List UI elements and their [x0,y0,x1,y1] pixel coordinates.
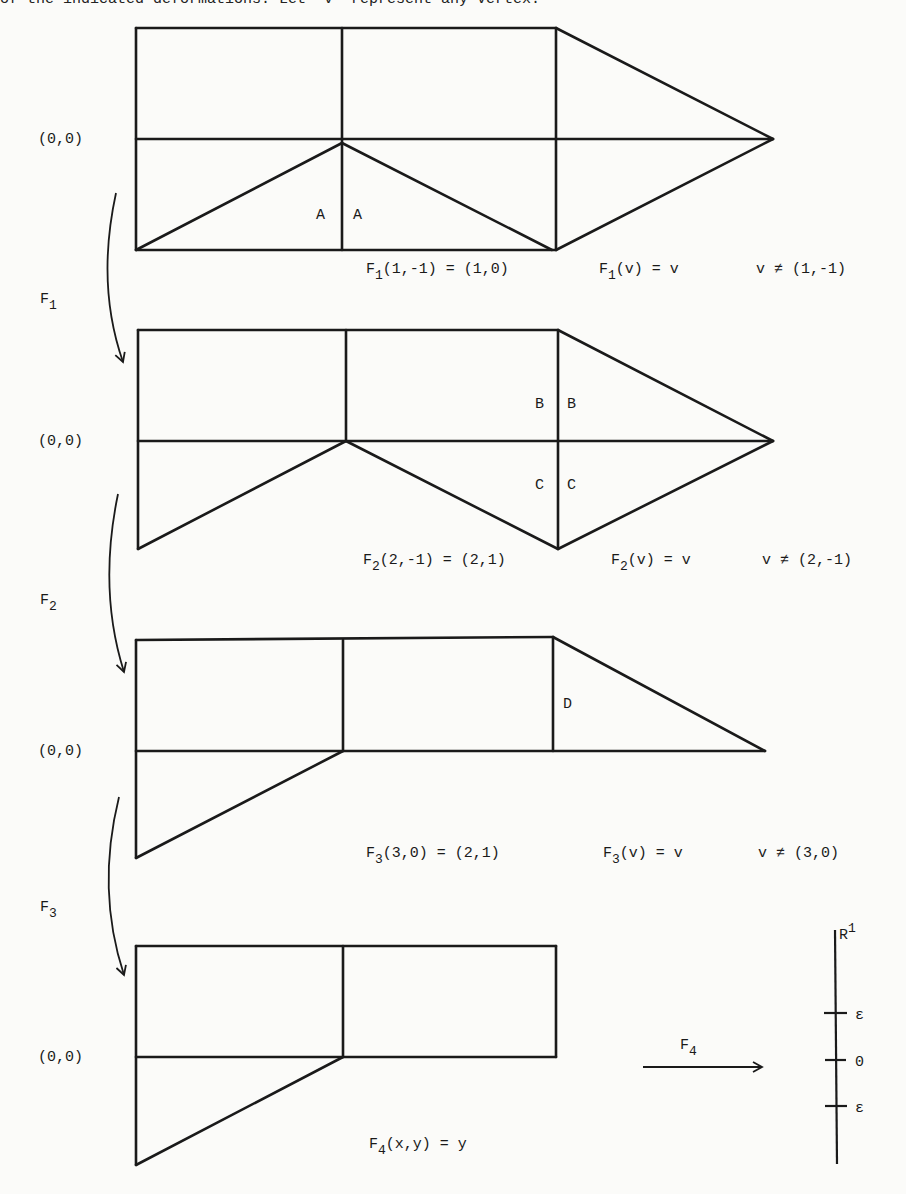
deformation-diagram [0,0,906,1194]
origin-label-4: (0,0) [38,1050,83,1065]
equation-f2-vertex: F2(2,-1) = (2,1) [363,553,506,568]
equation-f1-vertex: F1(1,-1) = (1,0) [366,262,509,277]
region-label-d: D [563,697,572,712]
complex-stage-2 [138,330,773,549]
header-fragment: of the indicated deformations. Let "v" r… [0,0,540,8]
map-label-f3: F3 [40,900,57,915]
tick-label-epsilon-lower: ε [855,1101,864,1116]
region-label-b-right: B [567,397,576,412]
equation-f2-condition: v ≠ (2,-1) [762,553,852,568]
curved-arrow-f2 [109,494,124,672]
region-label-c-left: C [535,478,544,493]
region-label-a-left: A [316,208,325,223]
region-label-b-left: B [535,397,544,412]
map-label-f1: F1 [40,292,57,307]
curved-arrow-f3 [109,797,124,975]
complex-stage-3 [136,637,765,858]
region-label-a-right: A [353,208,362,223]
tick-label-zero: 0 [855,1055,864,1070]
map-label-f4: F4 [680,1038,697,1053]
equation-f2-identity: F2(v) = v [611,553,691,568]
origin-label-3: (0,0) [38,744,83,759]
origin-label-1: (0,0) [38,132,83,147]
equation-f1-condition: v ≠ (1,-1) [756,262,846,277]
complex-stage-1 [136,28,773,250]
equation-f4-projection: F4(x,y) = y [369,1137,467,1152]
region-label-c-right: C [567,478,576,493]
number-line-r1 [824,930,847,1164]
equation-f1-identity: F1(v) = v [599,262,679,277]
map-label-f2: F2 [40,593,57,608]
equation-f3-identity: F3(v) = v [603,846,683,861]
space-label-r1: R1 [839,928,856,943]
complex-stage-4 [136,946,556,1165]
equation-f3-vertex: F3(3,0) = (2,1) [366,846,500,861]
origin-label-2: (0,0) [38,434,83,449]
curved-arrow-f1 [107,193,123,362]
equation-f3-condition: v ≠ (3,0) [758,846,839,861]
tick-label-epsilon-upper: ε [855,1008,864,1023]
